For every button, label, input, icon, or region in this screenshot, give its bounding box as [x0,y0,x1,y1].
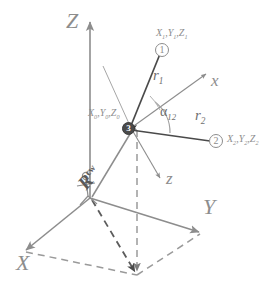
point-2-coord-x-sub: 2 [233,139,236,146]
station-coord-x-sub: 0 [94,113,97,120]
point-2-coordinate-label: X2,Y2,Z2 [227,134,259,146]
ray-r1 [130,54,160,128]
global-y-axis [90,198,199,232]
coordinate-system-figure: Z Y X x z 1 X1,Y1,Z1 2 X2,Y2,Z2 3 X0,Y0,… [0,0,280,287]
point-1-coord-z-sub: 1 [184,33,187,40]
point-2-badge: 2 [209,134,223,148]
distance-r2-label: r2 [195,108,206,126]
axis-label-z-local: z [166,170,173,187]
angle-alpha12-label: α12 [160,105,176,121]
axis-label-Y: Y [203,196,215,218]
distance-r2-sub: 2 [201,116,206,126]
local-z-axis [131,128,160,178]
station-coord-z-sub: 0 [116,113,119,120]
vector-R-line [92,129,133,197]
ground-plane-edge-front-left [26,252,137,275]
axis-label-Z: Z [66,10,78,32]
angle-arc-inner [150,96,160,110]
angle-alpha12-sub: 12 [167,112,176,122]
station-node-badge: 3 [122,122,135,135]
point-2-coord-y-sub: 2 [244,139,247,146]
station-coordinate-label: X0,Y0,Z0 [88,108,120,120]
point-1-coord-y-sub: 1 [173,33,176,40]
ground-plane-edge-front-right [137,234,200,275]
point-1-coord-x-sub: 1 [162,33,165,40]
point-1-coordinate-label: X1,Y1,Z1 [156,28,188,40]
distance-r1-label: r1 [153,68,164,86]
distance-r1-sub: 1 [159,76,164,86]
axis-label-X: X [16,252,29,274]
axis-label-x-local: x [211,72,219,89]
point-1-badge: 1 [155,43,169,57]
point-2-coord-z-sub: 2 [255,139,258,146]
station-coord-y-sub: 0 [105,113,108,120]
global-x-axis [26,198,90,250]
